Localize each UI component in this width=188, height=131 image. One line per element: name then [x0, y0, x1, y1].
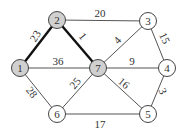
- edge-7-3: [98, 21, 148, 68]
- node-label: 4: [164, 62, 170, 74]
- edge-weight-label: 28: [24, 84, 41, 100]
- node-3: 3: [140, 13, 157, 30]
- nodes-layer: 1234567: [12, 12, 176, 123]
- edge-weight-label: 9: [129, 55, 135, 67]
- edge-2-3: [57, 20, 148, 21]
- node-2: 2: [49, 12, 66, 29]
- edge-weight-label: 4: [111, 34, 124, 46]
- node-label: 1: [17, 62, 23, 74]
- node-label: 5: [145, 108, 151, 120]
- node-7: 7: [90, 60, 107, 77]
- node-6: 6: [49, 106, 66, 123]
- node-label: 7: [95, 62, 101, 74]
- node-4: 4: [159, 60, 176, 77]
- node-label: 3: [145, 15, 151, 27]
- edge-7-6: [57, 68, 98, 114]
- edge-weight-label: 1: [77, 30, 90, 42]
- node-1: 1: [12, 60, 29, 77]
- edge-weight-label: 25: [67, 75, 84, 92]
- node-5: 5: [140, 106, 157, 123]
- edge-weight-label: 20: [95, 7, 107, 19]
- edge-weight-label: 15: [157, 30, 173, 45]
- edge-1-2: [20, 20, 57, 68]
- node-label: 2: [54, 14, 60, 26]
- graph-diagram: 23120364159282516317 1234567: [0, 0, 188, 131]
- edge-weight-label: 36: [53, 55, 65, 67]
- edge-weight-label: 17: [95, 118, 107, 130]
- node-label: 6: [54, 108, 60, 120]
- edge-weight-label: 16: [116, 75, 133, 92]
